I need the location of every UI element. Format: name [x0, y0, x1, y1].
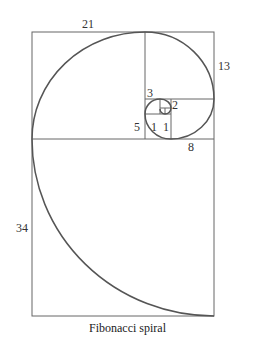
outer-rect [32, 32, 214, 316]
label-1b: 1 [163, 121, 169, 133]
label-21: 21 [82, 18, 94, 30]
spiral-curve [32, 32, 214, 316]
caption: Fibonacci spiral [0, 321, 255, 336]
label-8: 8 [188, 141, 194, 153]
label-1a: 1 [151, 121, 157, 133]
label-3: 3 [147, 87, 153, 99]
fibonacci-diagram [0, 0, 255, 345]
label-2: 2 [172, 99, 178, 111]
label-5: 5 [134, 121, 140, 133]
label-34: 34 [16, 222, 28, 234]
label-13: 13 [218, 60, 230, 72]
